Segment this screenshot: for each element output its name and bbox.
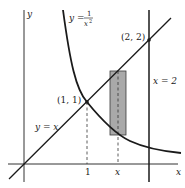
diagram: y x (1, 1) (2, 2) y = x x = 2 y = 1 x 2 …	[0, 0, 185, 188]
hyperbola-label-numerator: 1	[87, 10, 91, 18]
point-2-2-label: (2, 2)	[121, 32, 145, 42]
hyperbola-label-lhs: y =	[68, 13, 85, 23]
line-y-equals-x	[9, 18, 171, 179]
line-x-equals-2-label: x = 2	[153, 76, 177, 86]
x-axis-label: x	[176, 167, 181, 177]
hyperbola-label-denominator: x	[84, 20, 88, 28]
hyperbola-label-exponent: 2	[89, 18, 92, 24]
shaded-rectangle	[110, 71, 126, 135]
y-axis-label: y	[26, 9, 33, 19]
point-2-2	[147, 38, 151, 42]
point-1-1	[85, 100, 89, 104]
line-y-equals-x-label: y = x	[34, 122, 58, 132]
point-1-1-label: (1, 1)	[57, 95, 81, 105]
hyperbola-label: y = 1 x 2	[68, 10, 93, 28]
tick-label-1: 1	[85, 167, 91, 177]
tick-label-x: x	[115, 167, 120, 177]
